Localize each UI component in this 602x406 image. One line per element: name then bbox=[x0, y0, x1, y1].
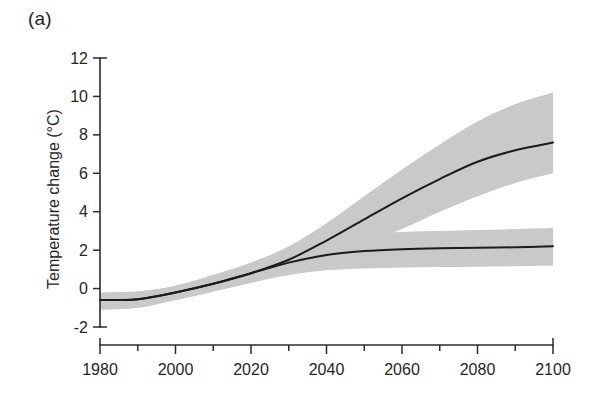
y-tick-label: 6 bbox=[79, 165, 88, 182]
x-tick-label: 2040 bbox=[309, 361, 345, 378]
y-tick-label: -2 bbox=[74, 319, 88, 336]
x-tick-label: 1980 bbox=[82, 361, 118, 378]
temperature-change-line-chart: -20246810121980200020202040206020802100 bbox=[0, 0, 602, 406]
x-tick-label: 2020 bbox=[233, 361, 269, 378]
y-tick-label: 8 bbox=[79, 126, 88, 143]
uncertainty-bands bbox=[100, 93, 553, 310]
x-tick-label: 2000 bbox=[158, 361, 194, 378]
y-tick-label: 4 bbox=[79, 203, 88, 220]
panel-label: (a) bbox=[28, 8, 52, 30]
x-tick-label: 2060 bbox=[384, 361, 420, 378]
x-tick-label: 2100 bbox=[535, 361, 571, 378]
x-tick-label: 2080 bbox=[460, 361, 496, 378]
y-tick-label: 0 bbox=[79, 280, 88, 297]
axis-tick-labels: -20246810121980200020202040206020802100 bbox=[70, 50, 571, 379]
axes bbox=[93, 58, 553, 354]
figure-panel-a: (a) Temperature change (°C) -20246810121… bbox=[0, 0, 602, 406]
y-axis-label: Temperature change (°C) bbox=[45, 49, 63, 349]
y-tick-label: 2 bbox=[79, 242, 88, 259]
y-tick-label: 10 bbox=[70, 88, 88, 105]
y-tick-label: 12 bbox=[70, 50, 88, 67]
uncertainty-band-series-0 bbox=[100, 93, 553, 310]
